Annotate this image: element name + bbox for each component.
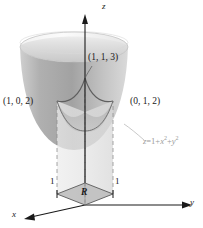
point-label-peak: (1, 1, 3) — [88, 53, 118, 63]
figure-graphics — [0, 0, 203, 228]
tick-label-x-one: 1 — [50, 177, 55, 186]
point-label-left: (1, 0, 2) — [3, 97, 33, 107]
leader-equation — [124, 124, 144, 140]
x-axis-arrowhead — [24, 214, 35, 221]
z-axis-arrowhead — [82, 14, 88, 24]
axis-label-z: z — [102, 2, 106, 11]
region-label-R: R — [81, 188, 87, 198]
x-axis — [31, 205, 85, 217]
axis-label-x: x — [12, 210, 16, 219]
paraboloid-figure: (1, 1, 3) (1, 0, 2) (0, 1, 2) z=1+x2+y2 … — [0, 0, 203, 228]
equation-y-exponent: 2 — [176, 135, 179, 141]
axis-label-y: y — [190, 198, 194, 207]
tick-label-y-one: 1 — [115, 177, 120, 186]
surface-equation-label: z=1+x2+y2 — [143, 137, 179, 146]
point-label-right: (0, 1, 2) — [130, 97, 160, 107]
